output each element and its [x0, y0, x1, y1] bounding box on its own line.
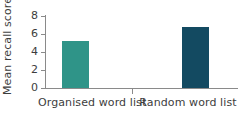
y-tick-label-8: 8: [31, 9, 38, 22]
y-tick-0: 0: [41, 88, 46, 89]
y-tick-2: 2: [41, 70, 46, 71]
x-category-label-random: Random word list: [138, 96, 238, 109]
bar-chart-figure: Mean recall score 0 2 4 6 8 Organised wo…: [0, 0, 244, 118]
x-tick-separator: [132, 89, 133, 94]
y-tick-label-6: 6: [31, 27, 38, 40]
x-axis-line: [45, 88, 238, 89]
bar-random-word-list: [182, 27, 209, 88]
y-tick-6: 6: [41, 34, 46, 35]
y-tick-label-0: 0: [31, 81, 38, 94]
x-category-label-organised: Organised word list: [38, 96, 134, 109]
y-tick-8: 8: [41, 16, 46, 17]
bar-organised-word-list: [62, 41, 89, 88]
y-tick-label-2: 2: [31, 63, 38, 76]
y-tick-label-4: 4: [31, 45, 38, 58]
y-tick-4: 4: [41, 52, 46, 53]
y-axis-title: Mean recall score: [0, 0, 14, 92]
